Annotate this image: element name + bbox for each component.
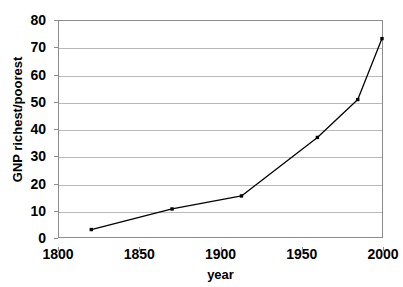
y-tick-label: 30 xyxy=(0,149,52,163)
x-tick-mark xyxy=(383,247,384,251)
y-tick-label: 60 xyxy=(0,68,52,82)
y-tick-label: 70 xyxy=(0,40,52,54)
x-axis-tick-labels: 18001850190019502000 xyxy=(0,247,396,263)
x-tick-mark xyxy=(139,247,140,251)
data-point-marker xyxy=(170,207,173,210)
data-point-marker xyxy=(90,228,93,231)
data-point-marker xyxy=(356,98,359,101)
data-point-marker xyxy=(316,136,319,139)
y-tick-label: 50 xyxy=(0,95,52,109)
y-axis-tick-labels: 80706050403020100 xyxy=(0,20,52,238)
data-series-layer xyxy=(59,21,382,238)
plot-area xyxy=(58,20,383,238)
x-tick-mark xyxy=(221,247,222,251)
y-tick-label: 80 xyxy=(0,13,52,27)
x-tick-mark xyxy=(302,247,303,251)
y-tick-label: 10 xyxy=(0,204,52,218)
data-point-marker xyxy=(240,194,243,197)
y-tick-label: 0 xyxy=(0,231,52,245)
x-tick-mark xyxy=(58,247,59,251)
x-tick-label: 2000 xyxy=(353,247,403,261)
y-tick-label: 40 xyxy=(0,122,52,136)
x-axis-title: year xyxy=(58,268,383,281)
chart-title xyxy=(0,0,396,2)
y-tick-mark xyxy=(54,238,58,239)
y-tick-label: 20 xyxy=(0,177,52,191)
data-point-marker xyxy=(380,37,383,40)
series-line xyxy=(91,39,382,230)
